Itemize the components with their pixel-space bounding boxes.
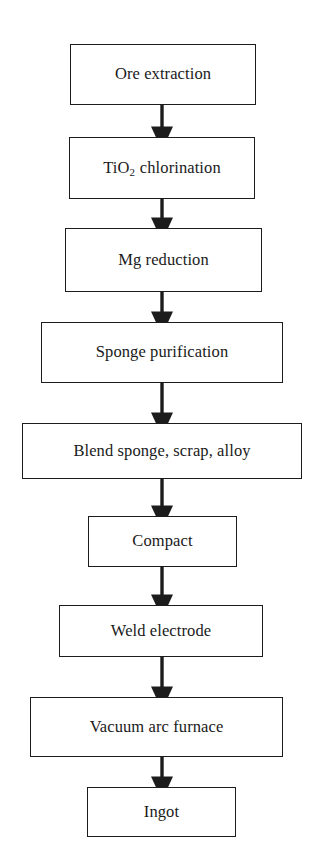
- flow-node-label: Ingot: [140, 803, 183, 821]
- flow-node-label: Mg reduction: [114, 251, 213, 269]
- flow-node-blend-sponge-scrap-alloy[interactable]: Blend sponge, scrap, alloy: [22, 423, 302, 479]
- flow-node-label: Compact: [128, 532, 196, 550]
- flow-node-weld-electrode[interactable]: Weld electrode: [59, 605, 263, 657]
- flow-node-mg-reduction[interactable]: Mg reduction: [65, 228, 262, 292]
- flow-node-compact[interactable]: Compact: [88, 516, 237, 567]
- flow-node-label: Blend sponge, scrap, alloy: [69, 442, 254, 460]
- flow-node-tio2-chlorination[interactable]: TiO2 chlorination: [69, 137, 255, 199]
- flowchart-canvas: Ore extraction TiO2 chlorination Mg redu…: [0, 0, 315, 865]
- flow-node-label: Ore extraction: [111, 65, 215, 83]
- flow-node-vacuum-arc-furnace[interactable]: Vacuum arc furnace: [30, 697, 283, 757]
- flow-node-ore-extraction[interactable]: Ore extraction: [70, 44, 256, 105]
- flow-node-ingot[interactable]: Ingot: [87, 787, 236, 837]
- flow-node-label: TiO2 chlorination: [99, 159, 225, 177]
- flow-node-label: Sponge purification: [92, 343, 233, 361]
- flow-node-sponge-purification[interactable]: Sponge purification: [41, 322, 283, 383]
- flow-node-label: Weld electrode: [107, 622, 215, 640]
- flow-node-label: Vacuum arc furnace: [86, 718, 228, 736]
